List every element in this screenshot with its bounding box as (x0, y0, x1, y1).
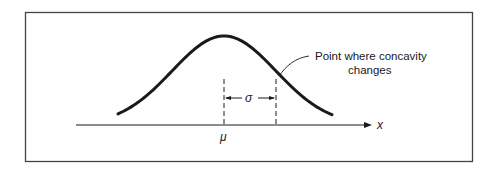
sigma-arrow-right-icon (269, 96, 275, 100)
figure-frame (26, 13, 473, 162)
bell-curve (118, 36, 332, 115)
normal-curve-diagram: x μ σ Point where concavity changes (0, 0, 496, 172)
sigma-label: σ (245, 91, 253, 105)
annotation-leader-line (279, 56, 309, 76)
mean-label: μ (219, 130, 227, 144)
x-axis-arrow-icon (364, 122, 372, 128)
annotation-line-2: changes (348, 64, 392, 76)
x-axis-label: x (376, 118, 384, 132)
annotation-line-1: Point where concavity (315, 50, 427, 62)
sigma-arrow-left-icon (225, 96, 231, 100)
